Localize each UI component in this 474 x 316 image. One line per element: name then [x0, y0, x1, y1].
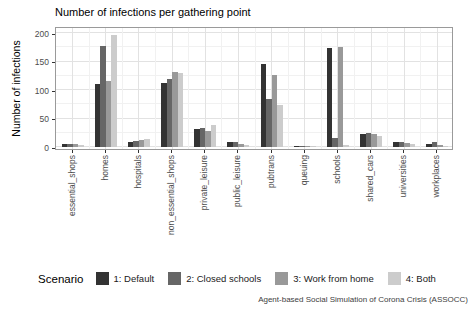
x-axis-label: hospitals: [132, 155, 144, 255]
legend-swatch: [275, 272, 288, 285]
x-axis-label: universities: [397, 155, 409, 255]
x-axis-label: public_leisure: [231, 155, 243, 255]
legend-entries: 1: Default2: Closed schools3: Work from …: [96, 272, 436, 285]
caption: Agent-based Social Simulation of Corona …: [258, 295, 468, 304]
y-tick-label: 50: [19, 115, 49, 124]
gridline-minor-v: [387, 28, 388, 149]
legend-entry-1: 1: Default: [96, 272, 155, 285]
bar-essential_shops-series4: [78, 145, 84, 147]
y-tick: [52, 91, 55, 92]
legend-title: Scenario: [38, 273, 83, 285]
legend-entry-label: 1: Default: [114, 273, 155, 284]
bar-universities-series4: [410, 144, 416, 147]
y-tick-label: 200: [19, 30, 49, 39]
x-tick: [370, 150, 371, 153]
gridline-minor-v: [188, 28, 189, 149]
gridline-major-v: [138, 28, 139, 149]
gridline-major-v: [72, 28, 73, 149]
bar-non_essential_shops-series4: [178, 73, 184, 147]
gridline-minor-v: [155, 28, 156, 149]
x-axis-label: essential_shops: [66, 155, 78, 255]
y-tick: [52, 34, 55, 35]
legend-entry-label: 3: Work from home: [293, 273, 374, 284]
x-tick: [171, 150, 172, 153]
gridline-minor-v: [420, 28, 421, 149]
gridline-minor-v: [122, 28, 123, 149]
chart-title: Number of infections per gathering point: [55, 6, 251, 18]
x-axis-label: workplaces: [430, 155, 442, 255]
legend: Scenario 1: Default2: Closed schools3: W…: [0, 272, 474, 285]
legend-entry-4: 4: Both: [388, 272, 436, 285]
gridline-major-v: [238, 28, 239, 149]
legend-swatch: [388, 272, 401, 285]
x-axis-label: schools: [331, 155, 343, 255]
x-axis-label: private_leisure: [198, 155, 210, 255]
gridline-major-v: [304, 28, 305, 149]
x-axis-label: shared_cars: [364, 155, 376, 255]
plot-panel: [55, 27, 453, 150]
x-tick: [271, 150, 272, 153]
x-tick: [403, 150, 404, 153]
legend-entry-3: 3: Work from home: [275, 272, 374, 285]
gridline-minor-v: [255, 28, 256, 149]
bar-pubtrans-series4: [277, 105, 283, 147]
bar-workplaces-series4: [443, 146, 449, 147]
bar-public_leisure-series4: [244, 145, 250, 147]
gridline-major-v: [371, 28, 372, 149]
y-tick: [52, 119, 55, 120]
bar-schools-series4: [343, 145, 349, 147]
y-tick-label: 0: [19, 144, 49, 153]
bar-homes-series4: [111, 35, 117, 147]
bar-schools-series3: [338, 47, 344, 147]
gridline-minor-v: [221, 28, 222, 149]
gridline-minor-v: [321, 28, 322, 149]
legend-entry-label: 4: Both: [406, 273, 436, 284]
x-axis-label: non_essential_shops: [165, 155, 177, 255]
x-tick: [138, 150, 139, 153]
x-axis-label: queuing: [298, 155, 310, 255]
bar-queuing-series4: [310, 146, 316, 147]
gridline-major-v: [437, 28, 438, 149]
legend-swatch: [168, 272, 181, 285]
bar-hospitals-series4: [144, 139, 150, 147]
x-tick: [337, 150, 338, 153]
bar-private_leisure-series4: [211, 125, 217, 147]
gridline-minor-v: [288, 28, 289, 149]
gridline-minor-v: [354, 28, 355, 149]
legend-entry-label: 2: Closed schools: [186, 273, 261, 284]
gridline-major-v: [404, 28, 405, 149]
x-tick: [436, 150, 437, 153]
x-tick: [72, 150, 73, 153]
y-tick: [52, 148, 55, 149]
x-axis-label: pubtrans: [265, 155, 277, 255]
x-axis-label: homes: [99, 155, 111, 255]
x-tick: [204, 150, 205, 153]
x-tick: [105, 150, 106, 153]
legend-entry-2: 2: Closed schools: [168, 272, 261, 285]
bar-shared_cars-series4: [377, 136, 383, 147]
y-tick: [52, 62, 55, 63]
y-tick-label: 100: [19, 87, 49, 96]
x-tick: [304, 150, 305, 153]
gridline-minor-v: [89, 28, 90, 149]
chart-figure: Number of infections per gathering point…: [0, 0, 474, 316]
legend-swatch: [96, 272, 109, 285]
x-tick: [237, 150, 238, 153]
bar-schools-series1: [327, 48, 333, 147]
y-tick-label: 150: [19, 58, 49, 67]
